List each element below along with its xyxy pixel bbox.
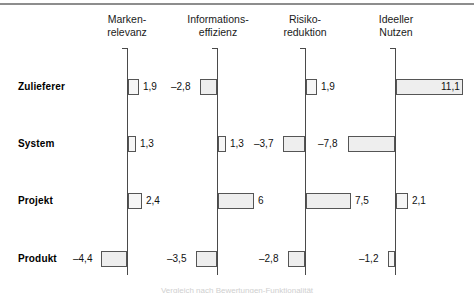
bar-ideeller-nutzen-system xyxy=(348,136,395,152)
bar-value-risikoreduktion-system: –3,7 xyxy=(254,136,273,152)
bar-value-informationseffizienz-projekt: 6 xyxy=(258,193,264,209)
bar-markenrelevanz-system xyxy=(128,136,136,152)
bar-ideeller-nutzen-produkt xyxy=(388,251,395,267)
row-label-zulieferer: Zulieferer xyxy=(18,81,65,92)
bar-value-risikoreduktion-produkt: –2,8 xyxy=(259,251,278,267)
axis-line-informationseffizienz xyxy=(217,48,218,275)
row-label-projekt: Projekt xyxy=(18,195,53,206)
column-header-line2: effizienz xyxy=(172,26,264,39)
bar-informationseffizienz-projekt xyxy=(218,193,254,209)
axis-tick-markenrelevanz xyxy=(122,48,127,49)
bar-value-markenrelevanz-zulieferer: 1,9 xyxy=(143,79,157,95)
bar-value-ideeller-nutzen-projekt: 2,1 xyxy=(412,193,426,209)
column-header-line2: Nutzen xyxy=(356,26,436,39)
bar-value-risikoreduktion-projekt: 7,5 xyxy=(355,193,369,209)
bar-informationseffizienz-produkt xyxy=(196,251,217,267)
column-header-markenrelevanz: Marken- relevanz xyxy=(87,13,167,38)
bar-value-markenrelevanz-produkt: –4,4 xyxy=(73,251,92,267)
column-header-ideeller-nutzen: Ideeller Nutzen xyxy=(356,13,436,38)
bar-risikoreduktion-system xyxy=(283,136,305,152)
bar-value-risikoreduktion-zulieferer: 1,9 xyxy=(321,79,335,95)
column-header-informationseffizienz: Informations- effizienz xyxy=(172,13,264,38)
bar-value-ideeller-nutzen-produkt: –1,2 xyxy=(359,251,378,267)
column-header-line2: relevanz xyxy=(87,26,167,39)
column-header-line1: Informations- xyxy=(187,13,248,25)
bar-risikoreduktion-zulieferer xyxy=(306,79,317,95)
bar-markenrelevanz-zulieferer xyxy=(128,79,139,95)
bar-value-ideeller-nutzen-zulieferer: 11,1 xyxy=(441,79,460,95)
row-label-system: System xyxy=(18,138,54,149)
bar-informationseffizienz-zulieferer xyxy=(200,79,217,95)
figure-caption-cutoff: Vergleich nach Bewertungen-Funktionalitä… xyxy=(0,286,474,293)
top-divider-rule xyxy=(0,3,474,5)
axis-tick-ideeller-nutzen xyxy=(390,48,395,49)
column-header-line1: Risiko- xyxy=(289,13,321,25)
bar-markenrelevanz-projekt xyxy=(128,193,142,209)
bar-risikoreduktion-produkt xyxy=(288,251,305,267)
bar-value-ideeller-nutzen-system: –7,8 xyxy=(318,136,337,152)
bar-informationseffizienz-system xyxy=(218,136,226,152)
column-header-line1: Marken- xyxy=(108,13,147,25)
column-header-risikoreduktion: Risiko- reduktion xyxy=(265,13,345,38)
bar-risikoreduktion-projekt xyxy=(306,193,351,209)
bar-value-informationseffizienz-zulieferer: –2,8 xyxy=(171,79,190,95)
axis-tick-informationseffizienz xyxy=(212,48,217,49)
bar-value-markenrelevanz-system: 1,3 xyxy=(140,136,154,152)
column-header-line2: reduktion xyxy=(265,26,345,39)
axis-tick-risikoreduktion xyxy=(300,48,305,49)
bar-value-informationseffizienz-system: 1,3 xyxy=(230,136,244,152)
bar-value-markenrelevanz-projekt: 2,4 xyxy=(146,193,160,209)
bar-value-informationseffizienz-produkt: –3,5 xyxy=(167,251,186,267)
bar-markenrelevanz-produkt xyxy=(101,251,127,267)
column-header-line1: Ideeller xyxy=(379,13,413,25)
row-label-produkt: Produkt xyxy=(18,253,57,264)
chart-figure: Marken- relevanz Informations- effizienz… xyxy=(0,0,474,293)
bar-ideeller-nutzen-projekt xyxy=(396,193,408,209)
